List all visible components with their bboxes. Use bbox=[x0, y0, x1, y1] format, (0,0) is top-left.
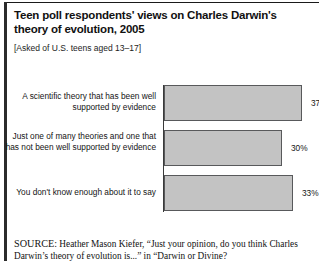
figure-subtitle: [Asked of U.S. teens aged 13–17] bbox=[14, 43, 141, 54]
category-label: You don't know enough about it to say bbox=[0, 187, 156, 198]
bar-value-label: 37% bbox=[311, 98, 319, 108]
figure-content: Teen poll respondents' views on Charles … bbox=[14, 0, 319, 261]
chart-row: Just one of many theories and one that h… bbox=[14, 130, 319, 166]
source-label: SOURCE: bbox=[14, 238, 57, 249]
chart-row: A scientific theory that has been well s… bbox=[14, 85, 319, 121]
category-label: Just one of many theories and one that h… bbox=[0, 131, 156, 152]
figure-container: Teen poll respondents' views on Charles … bbox=[0, 0, 319, 261]
page-title: Teen poll respondents' views on Charles … bbox=[14, 9, 300, 36]
bar-value-label: 30% bbox=[291, 143, 308, 153]
bar bbox=[164, 130, 282, 166]
category-label: A scientific theory that has been well s… bbox=[0, 91, 156, 112]
source-note: SOURCE: Heather Mason Kiefer, “Just your… bbox=[14, 238, 306, 261]
chart-row: You don't know enough about it to say 33… bbox=[14, 175, 319, 211]
bar bbox=[164, 85, 302, 121]
bar-chart: A scientific theory that has been well s… bbox=[14, 62, 319, 222]
source-text: Heather Mason Kiefer, “Just your opinion… bbox=[14, 239, 298, 261]
bar-value-label: 33% bbox=[302, 188, 319, 198]
bar bbox=[164, 175, 293, 211]
